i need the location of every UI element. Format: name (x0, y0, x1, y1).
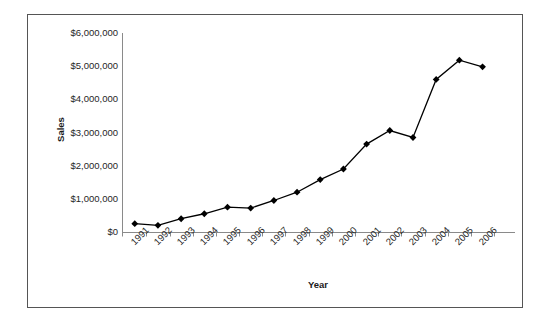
data-point-marker (479, 63, 486, 70)
data-point-marker (294, 189, 301, 196)
y-axis-tick-label: $2,000,000 (0, 161, 118, 171)
y-axis-tick-label: $0 (0, 227, 118, 237)
data-point-marker (410, 134, 417, 141)
x-axis-title: Year (258, 279, 378, 290)
data-point-marker (247, 205, 254, 212)
y-axis-tick-label: $4,000,000 (0, 94, 118, 104)
data-point-marker (201, 210, 208, 217)
data-point-marker (386, 127, 393, 134)
series-markers-sales (131, 57, 486, 229)
data-point-marker (224, 204, 231, 211)
data-point-marker (270, 197, 277, 204)
data-point-marker (178, 215, 185, 222)
y-axis-tick-label: $6,000,000 (0, 28, 118, 38)
data-point-marker (317, 176, 324, 183)
data-point-marker (131, 220, 138, 227)
data-point-marker (155, 222, 162, 229)
chart-screenshot: Sales $0$1,000,000$2,000,000$3,000,000$4… (0, 0, 548, 325)
y-axis-tick-label: $1,000,000 (0, 194, 118, 204)
plot-area (122, 33, 515, 232)
y-axis-tick-label: $5,000,000 (0, 61, 118, 71)
y-axis-tick-labels: $0$1,000,000$2,000,000$3,000,000$4,000,0… (0, 0, 118, 325)
y-axis-tick-label: $3,000,000 (0, 128, 118, 138)
series-line-sales (135, 60, 483, 225)
